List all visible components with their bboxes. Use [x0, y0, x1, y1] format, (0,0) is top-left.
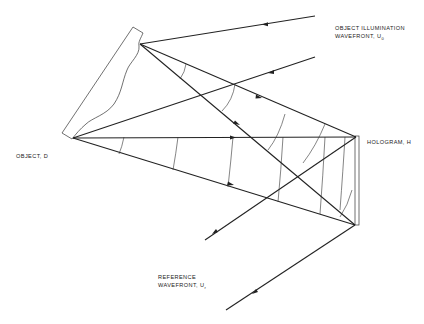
reference-label: REFERENCE WAVEFRONT, Ur	[158, 273, 206, 292]
object-label: OBJECT, D	[16, 152, 48, 160]
object-illumination-line1: OBJECT ILLUMINATION	[335, 24, 405, 32]
object-shape	[62, 27, 143, 139]
wavefront-arcs	[119, 64, 352, 217]
hologram-label: HOLOGRAM, H	[367, 138, 411, 146]
arrow-left-icon	[262, 22, 268, 26]
holography-diagram	[0, 0, 424, 324]
arrowheads	[212, 22, 274, 294]
rays	[73, 16, 356, 310]
arrow-right-icon	[233, 121, 240, 126]
arrow-right-icon	[227, 182, 234, 186]
reference-line1: REFERENCE	[158, 273, 206, 281]
reference-line2: WAVEFRONT, Ur	[158, 281, 206, 292]
hologram-plate	[355, 136, 359, 225]
object-illumination-line2: WAVEFRONT, U0	[335, 32, 405, 43]
object-illumination-label: OBJECT ILLUMINATION WAVEFRONT, U0	[335, 24, 405, 43]
